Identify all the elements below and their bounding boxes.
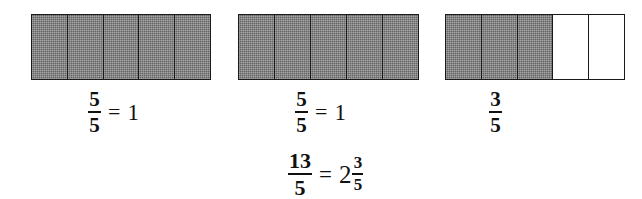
- fraction-label-2: 5 5 = 1: [295, 88, 346, 137]
- fraction-label-1: 5 5 = 1: [88, 88, 139, 137]
- equals-sign: =: [308, 101, 334, 123]
- label-result: 1: [334, 101, 346, 124]
- fraction-five-fifths: 5 5: [88, 88, 101, 137]
- fraction-numerator: 5: [295, 88, 308, 110]
- bar-cell: [518, 15, 554, 79]
- summary-equation: 13 5 = 2 3 5: [288, 149, 363, 199]
- fraction-label-3: 3 5: [489, 88, 502, 137]
- bar-cell: [68, 15, 104, 79]
- bar-cell: [139, 15, 175, 79]
- fraction-denominator: 5: [489, 114, 502, 136]
- bar-cell: [32, 15, 68, 79]
- fraction-denominator: 5: [88, 114, 101, 136]
- bar-model-3: [445, 14, 625, 80]
- bar-model-1: [31, 14, 211, 80]
- bar-model-2: [238, 14, 419, 80]
- mixed-number-fraction-part: 3 5: [352, 154, 363, 194]
- bar-cell: [383, 15, 418, 79]
- bar-cell: [446, 15, 482, 79]
- bar-cell: [347, 15, 383, 79]
- fraction-numerator: 3: [489, 88, 502, 110]
- fraction-numerator: 13: [288, 149, 312, 172]
- fraction-denominator: 5: [294, 176, 307, 199]
- equals-sign: =: [312, 163, 339, 186]
- fraction-denominator: 5: [353, 176, 364, 194]
- bar-cell: [589, 15, 624, 79]
- fraction-denominator: 5: [295, 114, 308, 136]
- fraction-numerator: 3: [353, 154, 364, 172]
- label-result: 1: [127, 101, 139, 124]
- bar-cell: [482, 15, 518, 79]
- bar-cell: [175, 15, 210, 79]
- bar-cell: [311, 15, 347, 79]
- bar-cell: [553, 15, 589, 79]
- fraction-numerator: 5: [88, 88, 101, 110]
- figure-canvas: 5 5 = 1 5 5 = 1 3 5 13 5 = 2 3: [0, 0, 642, 199]
- improper-fraction-thirteen-fifths: 13 5: [288, 149, 312, 199]
- mixed-number-whole-part: 2: [339, 162, 353, 187]
- equals-sign: =: [101, 101, 127, 123]
- bar-cell: [275, 15, 311, 79]
- bar-cell: [104, 15, 140, 79]
- fraction-three-fifths: 3 5: [489, 88, 502, 137]
- bar-cell: [239, 15, 275, 79]
- fraction-five-fifths: 5 5: [295, 88, 308, 137]
